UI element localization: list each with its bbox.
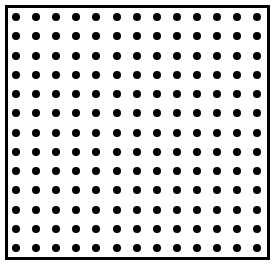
grid-dot <box>133 90 141 98</box>
grid-dot <box>213 225 221 233</box>
grid-dot <box>133 148 141 156</box>
grid-dot <box>113 167 121 175</box>
grid-dot <box>133 244 141 252</box>
grid-dot <box>92 206 100 214</box>
grid-dot <box>32 52 40 60</box>
grid-dot <box>12 129 20 137</box>
grid-dot <box>113 109 121 117</box>
grid-dot <box>52 52 60 60</box>
grid-dot <box>193 13 201 21</box>
grid-dot <box>253 206 261 214</box>
grid-dot <box>213 206 221 214</box>
grid-dot <box>193 244 201 252</box>
grid-dot <box>233 206 241 214</box>
grid-dot <box>113 148 121 156</box>
grid-dot <box>32 225 40 233</box>
grid-dot <box>32 148 40 156</box>
grid-dot <box>72 129 80 137</box>
grid-dot <box>133 129 141 137</box>
grid-dot <box>52 225 60 233</box>
grid-dot <box>253 52 261 60</box>
grid-dot <box>12 52 20 60</box>
grid-dot <box>12 90 20 98</box>
grid-dot <box>113 206 121 214</box>
grid-dot <box>173 52 181 60</box>
grid-dot <box>173 13 181 21</box>
grid-dot <box>153 90 161 98</box>
grid-dot <box>12 225 20 233</box>
grid-dot <box>92 52 100 60</box>
grid-dot <box>113 13 121 21</box>
grid-dot <box>153 32 161 40</box>
grid-dot <box>113 71 121 79</box>
grid-dot <box>133 52 141 60</box>
grid-dot <box>12 148 20 156</box>
grid-dot <box>153 148 161 156</box>
grid-dot <box>253 71 261 79</box>
grid-dot <box>32 206 40 214</box>
grid-dot <box>52 148 60 156</box>
grid-dot <box>233 129 241 137</box>
grid-dot <box>113 32 121 40</box>
grid-dot <box>153 13 161 21</box>
grid-dot <box>32 71 40 79</box>
grid-dot <box>213 148 221 156</box>
grid-dot <box>153 186 161 194</box>
grid-dot <box>193 148 201 156</box>
grid-dot <box>173 129 181 137</box>
grid-dot <box>113 225 121 233</box>
grid-dot <box>173 90 181 98</box>
grid-dot <box>173 225 181 233</box>
grid-dot <box>173 148 181 156</box>
grid-dot <box>173 167 181 175</box>
grid-dot <box>253 129 261 137</box>
grid-dot <box>213 129 221 137</box>
grid-dot <box>133 167 141 175</box>
grid-dot <box>213 52 221 60</box>
grid-dot <box>193 71 201 79</box>
grid-dot <box>92 129 100 137</box>
grid-dot <box>233 71 241 79</box>
grid-dot <box>52 206 60 214</box>
grid-dot <box>133 109 141 117</box>
grid-dot <box>173 206 181 214</box>
grid-dot <box>233 52 241 60</box>
grid-dot <box>193 52 201 60</box>
grid-dot <box>12 244 20 252</box>
grid-dot <box>133 225 141 233</box>
grid-dot <box>173 244 181 252</box>
grid-dot <box>133 13 141 21</box>
grid-dot <box>72 52 80 60</box>
grid-dot <box>72 206 80 214</box>
grid-dot <box>153 71 161 79</box>
grid-dot <box>12 71 20 79</box>
grid-dot <box>52 129 60 137</box>
grid-dot <box>113 129 121 137</box>
grid-dot <box>193 129 201 137</box>
grid-dot <box>213 90 221 98</box>
grid-dot <box>12 13 20 21</box>
grid-dot <box>113 244 121 252</box>
grid-dot <box>253 225 261 233</box>
grid-dot <box>153 244 161 252</box>
grid-dot <box>213 13 221 21</box>
grid-dot <box>153 225 161 233</box>
grid-dot <box>213 244 221 252</box>
grid-dot <box>153 206 161 214</box>
grid-dot <box>213 167 221 175</box>
grid-dot <box>153 52 161 60</box>
grid-dot <box>193 90 201 98</box>
grid-dot <box>12 167 20 175</box>
grid-dot <box>233 148 241 156</box>
grid-dot <box>133 206 141 214</box>
grid-dot <box>133 186 141 194</box>
grid-dot <box>193 167 201 175</box>
grid-dot <box>32 129 40 137</box>
grid-dot <box>133 32 141 40</box>
grid-dot <box>153 167 161 175</box>
grid-dot <box>213 71 221 79</box>
grid-dot <box>153 129 161 137</box>
grid-dot <box>12 206 20 214</box>
grid-dot <box>233 225 241 233</box>
grid-dot <box>193 225 201 233</box>
